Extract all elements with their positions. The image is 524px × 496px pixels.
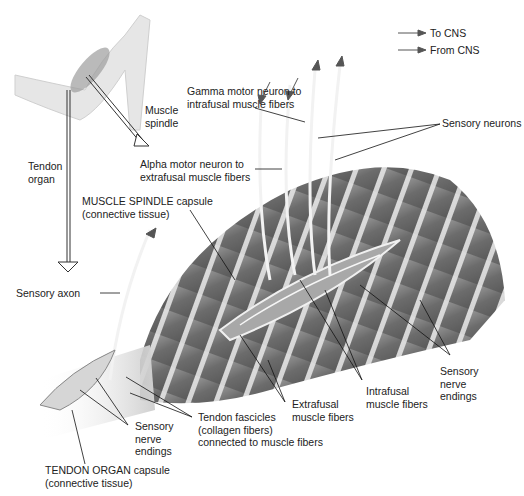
label-tendon-fascicles: Tendon fascicles (collagen fibers) conne…: [198, 411, 323, 449]
legend-from-cns-label: From CNS: [430, 44, 480, 56]
arm-illustration: [15, 15, 150, 272]
label-muscle-spindle: Muscle spindle: [145, 104, 178, 129]
label-sensory-neurons: Sensory neurons: [442, 117, 521, 130]
legend-arrows: [398, 30, 426, 53]
label-sensory-nerve-endings-right: Sensory nerve endings: [440, 365, 479, 403]
legend-to-cns: To CNS: [430, 27, 466, 39]
label-gamma-motor-neuron: Gamma motor neuron to intrafusal muscle …: [187, 85, 301, 110]
label-tendon-organ: Tendon organ: [28, 160, 62, 185]
label-tendon-organ-capsule: TENDON ORGAN capsule (connective tissue): [45, 464, 170, 489]
legend-from-cns: From CNS: [430, 44, 480, 56]
label-muscle-spindle-capsule: MUSCLE SPINDLE capsule (connective tissu…: [82, 195, 213, 220]
legend-to-cns-label: To CNS: [430, 27, 466, 39]
label-intrafusal-fibers: Intrafusal muscle fibers: [366, 385, 428, 410]
label-sensory-nerve-endings-left: Sensory nerve endings: [135, 420, 174, 458]
label-sensory-axon: Sensory axon: [16, 287, 80, 300]
label-alpha-motor-neuron: Alpha motor neuron to extrafusal muscle …: [140, 158, 250, 183]
